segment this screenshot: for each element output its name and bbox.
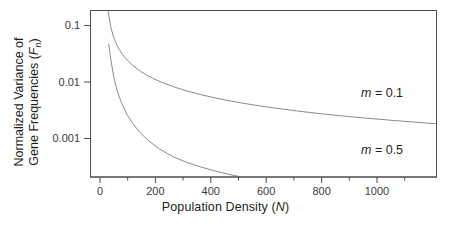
- x-tick-label-1: 200: [135, 185, 175, 197]
- annotation-m-0-1: m = 0.1: [361, 86, 403, 100]
- annotation-m-0-5: m = 0.5: [361, 143, 403, 157]
- annotation-m-0-5-symbol: m: [361, 143, 371, 157]
- y-axis-title-line2-suffix: ): [27, 38, 41, 42]
- y-axis-ticks: [84, 26, 91, 139]
- x-tick-label-3: 600: [246, 185, 286, 197]
- y-axis-title-line1: Normalized Variance of: [12, 38, 27, 167]
- y-axis-title-subscript: n: [33, 43, 43, 48]
- annotation-m-0-1-value: = 0.1: [375, 86, 403, 100]
- y-axis-title-line2: Gene Frequencies (Fn): [27, 38, 43, 165]
- y-axis-title: Normalized Variance of Gene Frequencies …: [5, 10, 51, 194]
- y-axis-title-symbol: F: [27, 48, 41, 56]
- annotation-m-0-1-symbol: m: [361, 86, 371, 100]
- y-axis-title-line2-prefix: Gene Frequencies (: [27, 55, 41, 165]
- x-tick-label-0: 0: [80, 185, 120, 197]
- x-axis-title-close: ): [285, 200, 289, 214]
- x-tick-label-4: 800: [302, 185, 342, 197]
- annotation-m-0-5-value: = 0.5: [375, 143, 403, 157]
- x-tick-label-2: 400: [191, 185, 231, 197]
- figure-container: 0.1 0.01 0.001 0 200 400 600 800 1000 m …: [0, 0, 451, 227]
- x-axis-title: Population Density (N): [0, 200, 451, 214]
- x-tick-label-5: 1000: [357, 185, 397, 197]
- x-axis-title-symbol: N: [276, 200, 285, 214]
- x-axis-title-text: Population Density (: [162, 200, 276, 214]
